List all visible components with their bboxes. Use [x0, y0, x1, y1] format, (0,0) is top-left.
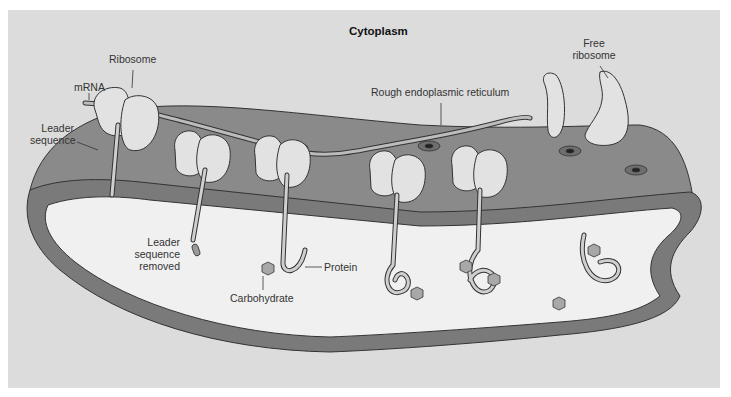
leader-sequence-label-line1: Leader [30, 122, 74, 134]
leader-removed-label-line3: removed [130, 260, 180, 272]
free-ribosome-label: Free ribosome [568, 37, 620, 61]
carbohydrate-label: Carbohydrate [230, 292, 294, 304]
leader-sequence-label: Leader sequence [30, 122, 74, 146]
leader-removed-label-line2: sequence [130, 248, 180, 260]
free-ribosome-label-line1: Free [568, 37, 620, 49]
protein-label: Protein [324, 261, 357, 273]
mrna-label: mRNA [74, 81, 105, 93]
rough-er-label: Rough endoplasmic reticulum [371, 86, 509, 98]
ribosome-label: Ribosome [109, 53, 156, 65]
region-label-cytoplasm: Cytoplasm [349, 25, 408, 37]
free-ribosome [543, 71, 628, 145]
leader-sequence-label-line2: sequence [30, 134, 74, 146]
free-ribosome-label-line2: ribosome [568, 49, 620, 61]
leader-removed-label-line1: Leader [130, 236, 180, 248]
leader-sequence-removed-label: Leader sequence removed [130, 236, 180, 272]
